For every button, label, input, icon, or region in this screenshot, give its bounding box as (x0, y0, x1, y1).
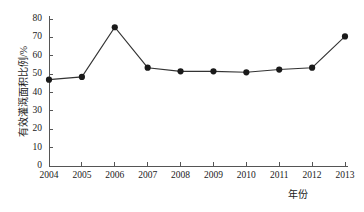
chart-axes (49, 16, 348, 166)
chart-container: 01020304050607080 2004200520062007200820… (0, 0, 364, 212)
y-axis-title: 有效灌溉面积比例/% (15, 32, 30, 152)
x-tick-label: 2011 (262, 170, 296, 180)
chart-plot-area (0, 0, 364, 212)
chart-series-line (49, 27, 345, 79)
x-tick-label: 2008 (164, 170, 198, 180)
x-tick-label: 2007 (131, 170, 165, 180)
x-tick-label: 2004 (32, 170, 66, 180)
x-tick-label: 2012 (295, 170, 329, 180)
chart-data-markers (46, 24, 348, 83)
x-tick-label: 2009 (196, 170, 230, 180)
x-tick-label: 2013 (328, 170, 362, 180)
x-tick-label: 2006 (98, 170, 132, 180)
y-tick-label: 80 (22, 13, 42, 23)
x-tick-label: 2005 (65, 170, 99, 180)
y-tick-label: 0 (22, 160, 42, 170)
x-tick-label: 2010 (229, 170, 263, 180)
x-axis-title: 年份 (288, 186, 308, 201)
